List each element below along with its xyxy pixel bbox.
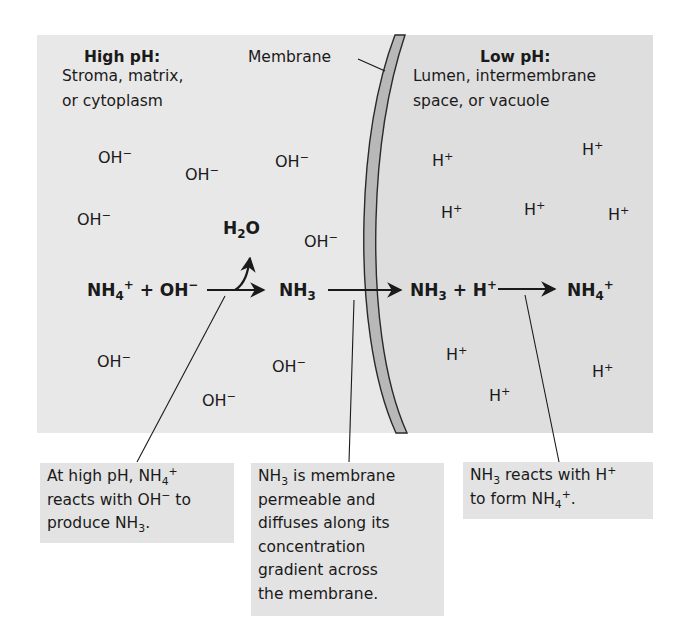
ammonium-product: NH4+	[567, 280, 614, 300]
high-ph-line1: Stroma, matrix,	[62, 67, 183, 86]
hydroxide-ion: OH−	[77, 210, 111, 229]
hydroxide-ion: OH−	[98, 148, 132, 167]
hydroxide-ion: OH−	[275, 152, 309, 171]
proton-ion: H+	[432, 151, 453, 170]
callout-low-ph-reaction: NH3 reacts with H+ to form NH4+.	[463, 462, 653, 519]
high-ph-title: High pH:	[84, 48, 160, 67]
low-ph-line2: space, or vacuole	[413, 92, 549, 111]
proton-ion: H+	[524, 200, 545, 219]
proton-ion: H+	[592, 362, 613, 381]
proton-ion: H+	[608, 205, 629, 224]
hydroxide-ion: OH−	[304, 232, 338, 251]
proton-ion: H+	[489, 386, 510, 405]
proton-ion: H+	[446, 345, 467, 364]
callout-high-ph-reaction: At high pH, NH4+ reacts with OH− to prod…	[40, 463, 234, 543]
high-ph-line2: or cytoplasm	[62, 92, 163, 111]
water-product: H2O	[223, 218, 260, 238]
ammonia-plus-proton: NH3 + H+	[410, 280, 497, 300]
low-ph-line1: Lumen, intermembrane	[413, 67, 596, 86]
ammonia-left: NH3	[279, 280, 316, 300]
proton-ion: H+	[582, 140, 603, 159]
hydroxide-ion: OH−	[97, 352, 131, 371]
membrane-label: Membrane	[248, 48, 331, 67]
hydroxide-ion: OH−	[272, 357, 306, 376]
hydroxide-ion: OH−	[202, 391, 236, 410]
hydroxide-ion: OH−	[185, 165, 219, 184]
reactant-ammonium-plus-hydroxide: NH4+ + OH−	[87, 280, 198, 300]
low-ph-title: Low pH:	[480, 48, 551, 67]
diagram-stage: High pH: Stroma, matrix, or cytoplasm Me…	[0, 0, 687, 640]
callout-membrane-diffusion: NH3 is membrane permeable and diffuses a…	[251, 463, 444, 616]
proton-ion: H+	[441, 203, 462, 222]
